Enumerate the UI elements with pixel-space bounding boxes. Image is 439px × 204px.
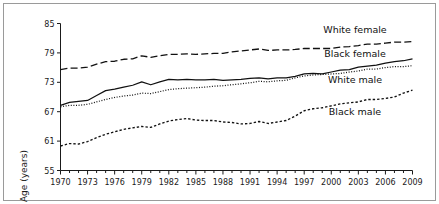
x-tick-label: 2003 <box>348 178 368 187</box>
y-tick-label: 73 <box>44 78 54 87</box>
y-tick-label: 67 <box>44 108 54 117</box>
y-tick-label: 55 <box>44 167 54 176</box>
legend-label-1: Black female <box>324 48 386 59</box>
series-line-3 <box>61 90 413 146</box>
x-tick-label: 1991 <box>240 178 260 187</box>
line-chart-svg: 5561677379851970197319761979198219851988… <box>0 0 439 204</box>
x-tick-label: 1970 <box>50 178 70 187</box>
y-tick-label: 61 <box>44 137 54 146</box>
x-tick-label: 1976 <box>104 178 124 187</box>
y-tick-label: 79 <box>44 49 54 58</box>
x-tick-label: 1994 <box>267 178 287 187</box>
y-tick-label: 85 <box>44 20 54 29</box>
series-line-2 <box>61 66 413 107</box>
chart-figure: Age (years) 5561677379851970197319761979… <box>0 0 439 204</box>
x-tick-label: 1997 <box>294 178 314 187</box>
x-tick-label: 2006 <box>375 178 395 187</box>
x-tick-label: 1988 <box>213 178 233 187</box>
legend-label-0: White female <box>323 24 387 35</box>
x-tick-label: 1979 <box>132 178 152 187</box>
x-tick-label: 1985 <box>186 178 206 187</box>
plot-area: 5561677379851970197319761979198219851988… <box>0 0 439 204</box>
x-tick-label: 1973 <box>77 178 97 187</box>
legend-label-2: White male <box>328 74 382 85</box>
legend-label-3: Black male <box>329 106 381 117</box>
x-tick-label: 1982 <box>159 178 179 187</box>
x-tick-label: 2000 <box>321 178 341 187</box>
x-tick-label: 2009 <box>402 178 422 187</box>
